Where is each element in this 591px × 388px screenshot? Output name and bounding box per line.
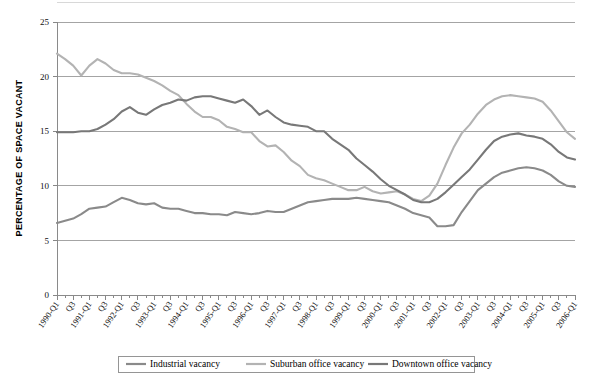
x-tick-label: Q3	[452, 299, 466, 313]
x-tick-label: Q3	[128, 299, 142, 313]
x-tick-label: Q3	[484, 299, 498, 313]
x-axis-ticks	[57, 295, 575, 300]
y-tick-label: 25	[40, 17, 50, 27]
x-tick-label: Q3	[387, 299, 401, 313]
y-axis-title: PERCENTAGE OF SPACE VACANT	[14, 79, 24, 236]
chart-canvas: 0510152025 1990-Q1Q31991-Q1Q31992-Q1Q319…	[0, 0, 591, 388]
x-tick-label: Q3	[290, 299, 304, 313]
series-line-2	[57, 96, 575, 202]
y-tick-label: 15	[40, 126, 50, 136]
y-tick-label: 0	[45, 290, 50, 300]
y-tick-label: 10	[40, 181, 50, 191]
x-tick-label: Q3	[549, 299, 563, 313]
x-tick-label: Q3	[160, 299, 174, 313]
x-tick-label: Q3	[355, 299, 369, 313]
x-tick-label: Q3	[257, 299, 271, 313]
y-tick-label: 5	[45, 236, 50, 246]
x-tick-label: Q3	[193, 299, 207, 313]
x-axis-labels: 1990-Q1Q31991-Q1Q31992-Q1Q31993-Q1Q31994…	[36, 299, 580, 330]
y-axis-ticks: 0510152025	[40, 17, 57, 300]
y-tick-label: 20	[40, 72, 50, 82]
series-group	[57, 54, 575, 227]
legend-label-0: Industrial vacancy	[150, 359, 220, 369]
series-line-1	[57, 54, 575, 201]
vacancy-line-chart: 0510152025 1990-Q1Q31991-Q1Q31992-Q1Q319…	[0, 0, 591, 388]
x-tick-label: Q3	[96, 299, 110, 313]
chart-legend: Industrial vacancySuburban office vacanc…	[118, 356, 492, 372]
x-tick-label: Q3	[225, 299, 239, 313]
x-tick-label: Q3	[516, 299, 530, 313]
x-tick-label: Q3	[419, 299, 433, 313]
legend-label-1: Suburban office vacancy	[270, 359, 365, 369]
x-tick-label: Q3	[322, 299, 336, 313]
legend-label-2: Downtown office vacancy	[392, 359, 492, 369]
series-line-0	[57, 167, 575, 226]
x-tick-label: Q3	[63, 299, 77, 313]
x-tick-label: 1990-Q1	[36, 299, 62, 330]
